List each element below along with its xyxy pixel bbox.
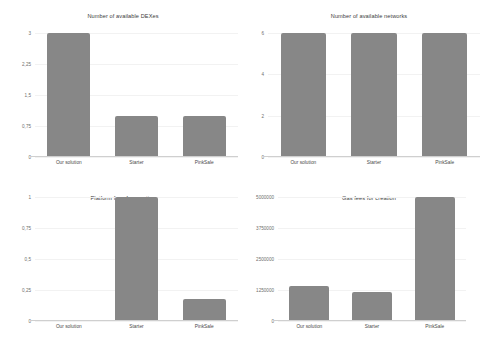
x-tick-label: Our solution [268, 157, 339, 165]
bar-slot [35, 197, 103, 321]
x-tick-labels-networks: Our solutionStarterPinkSale [268, 157, 480, 165]
x-tick-label: PinkSale [409, 157, 480, 165]
x-tick-label: PinkSale [403, 321, 466, 329]
bar [183, 116, 226, 157]
bar [351, 33, 396, 157]
y-tick-label: 2 [261, 113, 264, 118]
bar-slot [170, 33, 238, 157]
bar [183, 299, 226, 321]
bars-gas-fees [278, 197, 466, 321]
plot-area-dexes: 00,751,52,253 Our solutionStarterPinkSal… [35, 33, 238, 157]
bar [281, 33, 326, 157]
bar [289, 286, 329, 321]
bar [415, 197, 455, 321]
x-tick-labels-gas-fees: Our solutionStarterPinkSale [278, 321, 466, 329]
plot-area-gas-fees: 01250000250000037500005000000 Our soluti… [278, 197, 466, 321]
x-tick-label: Starter [103, 157, 171, 165]
x-tick-label: Starter [103, 321, 171, 329]
x-tick-label: Starter [339, 157, 410, 165]
bar-slot [409, 33, 480, 157]
y-tick-label: 0,75 [22, 226, 31, 231]
y-tick-label: 1 [28, 195, 31, 200]
bar [115, 116, 158, 157]
chart-panel-dexes: Number of available DEXes 00,751,52,253 … [0, 0, 246, 182]
y-tick-label: 2,25 [22, 62, 31, 67]
plot-area-networks: 0246 Our solutionStarterPinkSale [268, 33, 480, 157]
bar-slot [170, 197, 238, 321]
y-tick-label: 6 [261, 31, 264, 36]
y-tick-label: 3750000 [256, 226, 274, 231]
y-tick-label: 2500000 [256, 257, 274, 262]
bar-slot [403, 197, 466, 321]
x-tick-labels-platform-fees: Our solutionStarterPinkSale [35, 321, 238, 329]
y-tick-label: 0,25 [22, 288, 31, 293]
chart-panel-platform-fees: Platform fees for creation 00,250,50,751… [0, 182, 246, 363]
y-tick-label: 1250000 [256, 288, 274, 293]
bar [352, 292, 392, 321]
y-tick-label: 3 [28, 31, 31, 36]
chart-panel-networks: Number of available networks 0246 Our so… [246, 0, 492, 182]
bar-slot [268, 33, 339, 157]
plot-area-platform-fees: 00,250,50,751 Our solutionStarterPinkSal… [35, 197, 238, 321]
bars-networks [268, 33, 480, 157]
x-tick-labels-dexes: Our solutionStarterPinkSale [35, 157, 238, 165]
bar [115, 197, 158, 321]
bar-slot [103, 33, 171, 157]
chart-panel-gas-fees: Gas fees for creation 012500002500000375… [246, 182, 492, 363]
x-tick-label: Starter [341, 321, 404, 329]
chart-title-dexes: Number of available DEXes [0, 13, 246, 19]
x-tick-label: Our solution [35, 157, 103, 165]
y-tick-label: 0,75 [22, 124, 31, 129]
bar-slot [278, 197, 341, 321]
x-tick-label: PinkSale [170, 321, 238, 329]
chart-title-networks: Number of available networks [246, 13, 492, 19]
bars-dexes [35, 33, 238, 157]
bars-platform-fees [35, 197, 238, 321]
bar [422, 33, 467, 157]
y-tick-label: 4 [261, 72, 264, 77]
bar [47, 33, 90, 157]
y-tick-label: 1,5 [25, 93, 31, 98]
y-tick-label: 0,5 [25, 257, 31, 262]
bar-slot [35, 33, 103, 157]
x-tick-label: Our solution [35, 321, 103, 329]
x-tick-label: PinkSale [170, 157, 238, 165]
x-tick-label: Our solution [278, 321, 341, 329]
bar-slot [341, 197, 404, 321]
y-tick-label: 5000000 [256, 195, 274, 200]
bar-slot [103, 197, 171, 321]
chart-figure-grid: Number of available DEXes 00,751,52,253 … [0, 0, 492, 363]
bar-slot [339, 33, 410, 157]
